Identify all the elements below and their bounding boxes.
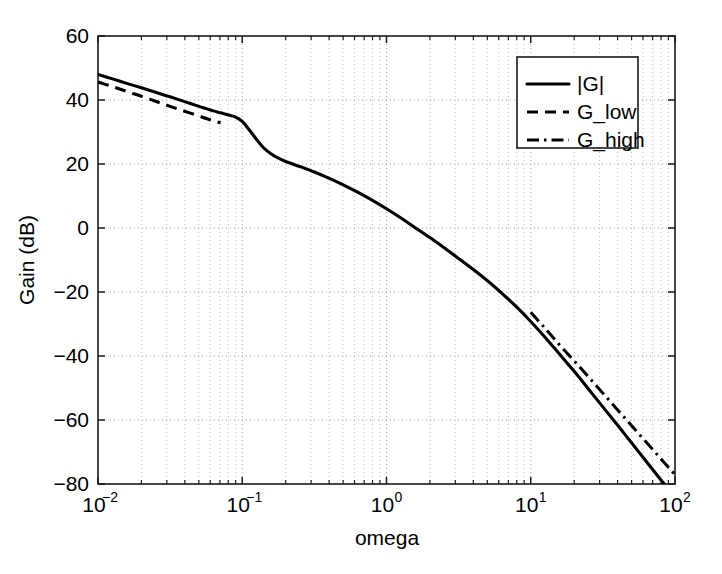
y-tick-label: −40 [53,344,89,367]
legend[interactable]: |G|G_lowG_high [517,57,645,152]
plot-canvas: −80−60−40−200204060 10−210−1100101102 om… [0,0,722,574]
y-tick-label: 20 [66,152,89,175]
y-tick-label: −80 [53,472,89,495]
series-line-dashed [98,82,221,123]
x-tick-label: 101 [515,489,547,516]
svg-text:10: 10 [659,493,682,516]
svg-text:−1: −1 [246,489,262,505]
series-line-dashdot [531,312,675,475]
svg-text:−2: −2 [102,489,118,505]
x-tick-label: 10−2 [82,489,118,516]
y-tick-label: 60 [66,24,89,47]
bode-magnitude-figure: −80−60−40−200204060 10−210−1100101102 om… [0,0,722,574]
svg-text:0: 0 [395,489,403,505]
y-tick-label: −20 [53,280,89,303]
y-tick-labels: −80−60−40−200204060 [53,24,89,495]
x-tick-label: 102 [659,489,691,516]
y-tick-label: −60 [53,408,89,431]
legend-label: G_high [577,128,645,152]
svg-text:1: 1 [539,489,547,505]
svg-text:2: 2 [683,489,691,505]
y-tick-label: 0 [77,216,89,239]
x-tick-label: 10−1 [227,489,263,516]
x-tick-label: 100 [371,489,403,516]
legend-label: G_low [577,100,637,124]
y-axis-title: Gain (dB) [15,215,38,305]
svg-text:10: 10 [515,493,538,516]
x-tick-labels: 10−210−1100101102 [82,489,691,516]
y-tick-label: 40 [66,88,89,111]
x-axis-title: omega [355,526,420,549]
svg-text:10: 10 [371,493,394,516]
legend-label: |G| [577,72,604,95]
